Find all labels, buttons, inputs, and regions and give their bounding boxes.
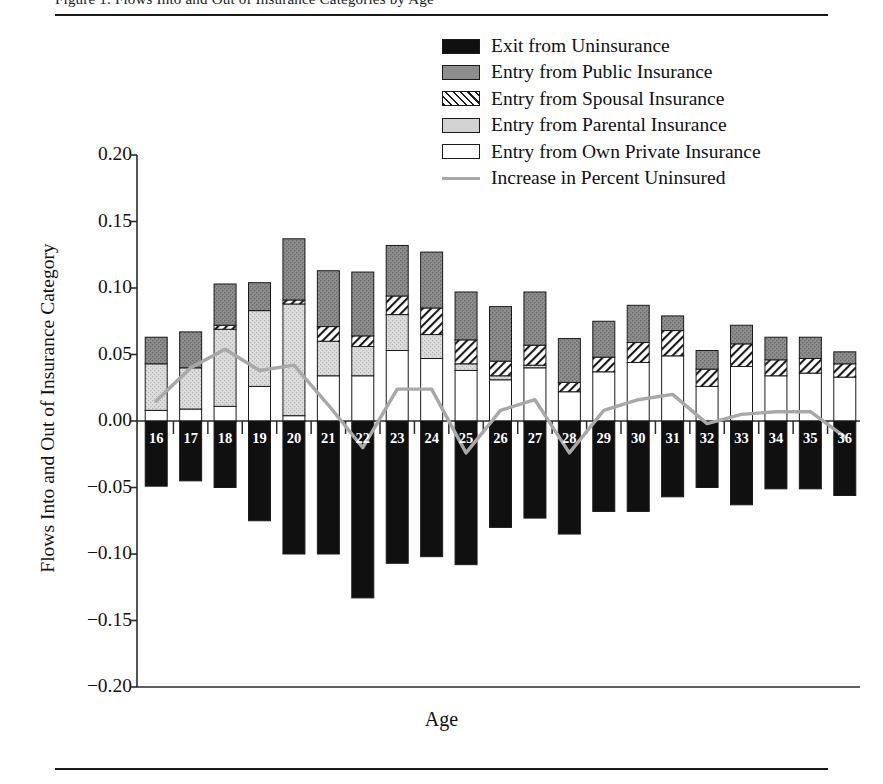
x-tick-16: 16: [149, 430, 164, 446]
bar-segment-public: [834, 352, 856, 364]
bar-age-36: [834, 352, 856, 496]
x-tick-20: 20: [287, 430, 302, 446]
bar-segment-spousal: [352, 336, 374, 347]
x-tick-18: 18: [218, 430, 233, 446]
bar-segment-public: [455, 292, 477, 340]
bar-segment-public: [249, 283, 271, 311]
bar-segment-public: [524, 292, 546, 345]
bar-segment-own: [627, 362, 649, 421]
bar-segment-spousal: [490, 361, 512, 376]
bar-segment-parental: [421, 335, 443, 359]
x-tick-27: 27: [528, 430, 543, 446]
bar-age-20: [283, 239, 305, 554]
bar-segment-spousal: [386, 296, 408, 315]
bar-segment-own: [765, 376, 787, 421]
bar-segment-public: [214, 284, 236, 325]
bar-segment-own: [352, 376, 374, 421]
bar-segment-spousal: [765, 360, 787, 376]
x-tick-26: 26: [493, 430, 508, 446]
x-tick-23: 23: [390, 430, 405, 446]
bar-segment-own: [593, 372, 615, 421]
x-tick-33: 33: [734, 430, 749, 446]
bar-segment-public: [799, 337, 821, 358]
bar-segment-spousal: [455, 340, 477, 364]
bar-age-18: [214, 284, 236, 487]
x-tick-32: 32: [700, 430, 715, 446]
bar-segment-own: [455, 370, 477, 421]
bar-segment-public: [765, 337, 787, 360]
bar-age-26: [490, 307, 512, 528]
bar-segment-own: [662, 356, 684, 421]
bar-segment-spousal: [696, 369, 718, 386]
bar-segment-public: [731, 325, 753, 344]
bar-segment-spousal: [214, 325, 236, 329]
bar-segment-parental: [214, 329, 236, 406]
bar-segment-parental: [283, 304, 305, 416]
bar-segment-spousal: [558, 382, 580, 391]
x-tick-30: 30: [631, 430, 646, 446]
bar-segment-parental: [455, 364, 477, 371]
bar-segment-spousal: [799, 358, 821, 373]
bar-segment-parental: [490, 376, 512, 380]
bar-age-16: [145, 337, 167, 486]
bar-age-29: [593, 321, 615, 511]
bar-segment-own: [799, 373, 821, 421]
bar-segment-parental: [386, 315, 408, 351]
bar-segment-public: [593, 321, 615, 357]
x-tick-29: 29: [597, 430, 612, 446]
bar-segment-public: [490, 307, 512, 362]
bar-segment-own: [214, 406, 236, 421]
bar-segment-spousal: [593, 357, 615, 372]
bar-segment-public: [386, 245, 408, 296]
x-tick-25: 25: [459, 430, 474, 446]
bar-segment-own: [386, 351, 408, 421]
bar-segment-public: [627, 305, 649, 342]
x-axis-tick-labels: 1617181920212223242526272829303132333435…: [149, 430, 852, 446]
x-tick-36: 36: [838, 430, 853, 446]
bar-segment-own: [283, 416, 305, 421]
bar-segment-spousal: [662, 331, 684, 356]
bar-segment-spousal: [283, 300, 305, 304]
bar-segment-own: [558, 392, 580, 421]
x-tick-35: 35: [803, 430, 818, 446]
bar-age-17: [180, 332, 202, 481]
bar-segment-public: [317, 271, 339, 327]
x-tick-17: 17: [183, 430, 198, 446]
bar-segment-own: [180, 409, 202, 421]
bar-segment-public: [283, 239, 305, 300]
bar-segment-spousal: [627, 343, 649, 363]
x-tick-21: 21: [321, 430, 336, 446]
bar-segment-spousal: [317, 327, 339, 342]
bar-segment-spousal: [731, 344, 753, 367]
bar-segment-own: [490, 380, 512, 421]
bars-group: [145, 239, 856, 598]
chart-canvas: 1617181920212223242526272829303132333435…: [0, 0, 883, 784]
bar-segment-public: [696, 351, 718, 370]
x-tick-28: 28: [562, 430, 577, 446]
bar-segment-parental: [145, 364, 167, 411]
bar-segment-public: [558, 339, 580, 383]
bar-segment-own: [834, 377, 856, 421]
figure-page: Figure 1. Flows Into and Out of Insuranc…: [0, 0, 883, 784]
x-tick-24: 24: [424, 430, 439, 446]
bar-age-25: [455, 292, 477, 565]
bar-age-19: [249, 283, 271, 521]
x-tick-34: 34: [769, 430, 784, 446]
bar-segment-public: [662, 316, 684, 331]
bar-age-31: [662, 316, 684, 497]
x-tick-22: 22: [356, 430, 371, 446]
bar-segment-parental: [317, 341, 339, 376]
bar-segment-spousal: [524, 345, 546, 365]
bar-segment-public: [421, 252, 443, 308]
bar-segment-public: [145, 337, 167, 364]
x-tick-31: 31: [665, 430, 680, 446]
bar-age-27: [524, 292, 546, 518]
x-tick-19: 19: [252, 430, 267, 446]
bar-segment-spousal: [421, 308, 443, 335]
bar-segment-own: [145, 410, 167, 421]
bar-age-30: [627, 305, 649, 511]
bar-segment-parental: [352, 347, 374, 376]
bar-segment-own: [249, 386, 271, 421]
bar-segment-parental: [249, 311, 271, 387]
bar-segment-public: [352, 272, 374, 336]
